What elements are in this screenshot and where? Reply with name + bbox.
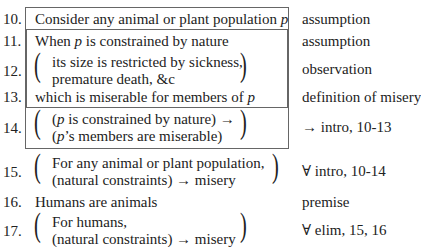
line-text-2: (p’s members are miserable): [52, 128, 222, 144]
line-text-1: For any animal or plant population,: [52, 155, 264, 171]
line10-divider: [25, 29, 287, 30]
justification: assumption: [302, 33, 370, 49]
line-number: 12.: [3, 63, 22, 79]
justification: assumption: [302, 11, 370, 27]
line-text-2: (natural constraints) → misery: [52, 231, 236, 247]
line-number: 17.: [3, 223, 22, 239]
line-text-2: (natural constraints) → misery: [52, 172, 236, 188]
right-paren: ): [240, 208, 247, 242]
right-paren: ): [272, 149, 279, 183]
right-paren: ): [240, 48, 247, 82]
left-paren: (: [34, 208, 41, 242]
line-number: 11.: [3, 33, 21, 49]
line-number: 16.: [3, 194, 22, 210]
left-paren: (: [34, 48, 41, 82]
line-text: Consider any animal or plant population …: [35, 11, 288, 27]
line-text: which is miserable for members of p: [35, 89, 255, 105]
line-text: Humans are animals: [35, 194, 157, 210]
left-paren: (: [34, 105, 41, 139]
justification: observation: [302, 61, 372, 77]
justification: ∀ elim, 15, 16: [302, 222, 386, 238]
left-paren: (: [34, 149, 41, 183]
line-number: 14.: [3, 120, 22, 136]
line-text-1: its size is restricted by sickness,: [52, 54, 243, 70]
line-text-2: premature death, &c: [52, 71, 175, 87]
line-text-1: (p is constrained by nature) →: [52, 111, 235, 127]
justification: premise: [302, 194, 349, 210]
line-number: 15.: [3, 164, 22, 180]
line-number: 13.: [3, 89, 22, 105]
line-number: 10.: [3, 11, 22, 27]
justification: ∀ intro, 10-14: [302, 163, 386, 179]
line-text: When p is constrained by nature: [35, 33, 229, 49]
justification: definition of misery: [302, 89, 421, 105]
justification: → intro, 10-13: [302, 119, 392, 135]
line-text-1: For humans,: [52, 214, 127, 230]
right-paren: ): [240, 105, 247, 139]
